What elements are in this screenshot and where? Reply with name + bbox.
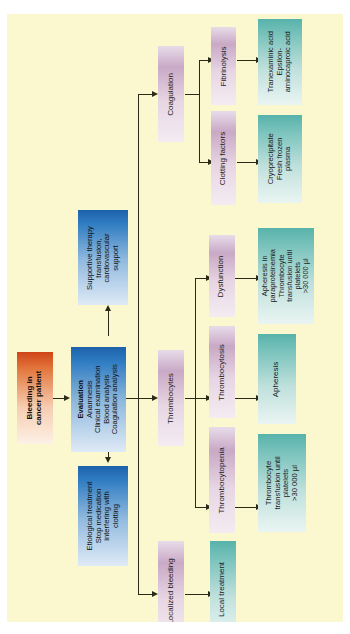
edge-thrombocytosis-tx (235, 398, 257, 399)
trunk-vertical (138, 94, 139, 594)
node-antifibrinolytic-agents[interactable]: Tranexaminic acidEpsilon-aminocaproic ac… (258, 19, 302, 105)
edge-fibrinolysis-antifibrinolytics (237, 60, 257, 61)
flowchart-canvas: Bleeding incancer patient EvaluationAnam… (7, 14, 343, 622)
node-fibrinolysis[interactable]: Fibrinolysis (211, 27, 236, 105)
node-supportive-therapy-label: Supportive therapytransfusion,cardiovasc… (86, 226, 120, 290)
node-localized-bleeding-label: Localized bleeding (167, 558, 176, 622)
node-fibrinolysis-label: Fibrinolysis (219, 46, 228, 86)
node-bleeding-in-cancer-patient-label: Bleeding incancer patient (26, 371, 44, 425)
node-thrombocytopenia[interactable]: Thrombocytopenia (209, 427, 235, 533)
node-coagulation[interactable]: Coagulation (158, 46, 184, 142)
node-thrombocytopenia-label: Thrombocytopenia (218, 447, 227, 513)
edge-thrombocytes-bus (185, 398, 195, 399)
node-clotting-factors-label: Clotting factors (219, 131, 228, 184)
node-etiological-treatment[interactable]: Etiological treatmentStop medicationinte… (78, 466, 128, 566)
node-dysfunction[interactable]: Dysfunction (209, 235, 235, 317)
node-dysfunction-label: Dysfunction (218, 255, 227, 297)
edge-evaluation-trunk (126, 398, 153, 399)
edge-trunk-coagulation (138, 94, 153, 95)
node-thrombocytosis-treatment-label: Apheresis (273, 361, 282, 397)
coagulation-bus (199, 60, 200, 162)
node-localized-bleeding[interactable]: Localized bleeding (158, 541, 184, 622)
edge-thrombocytopenia-tx (235, 507, 257, 508)
node-cryoprecipitate-ffp[interactable]: CryoprecipitateFresh frozenplasma (258, 115, 302, 203)
node-thrombocytosis-label: Thrombocytosis (218, 344, 227, 400)
node-thrombocytes-label: Thrombocytes (167, 373, 176, 424)
node-dysfunction-treatment-label: Apheresis inparaproteinemiaThrombocytetr… (261, 249, 311, 302)
node-evaluation-lines: AnamnesisClinical examinationBlood analy… (85, 364, 120, 434)
node-etiological-treatment-label: Etiological treatmentStop medicationinte… (86, 482, 120, 551)
edge-clotting-factors-cryo (237, 162, 257, 163)
node-thrombocytopenia-treatment[interactable]: Thrombocytetransfusion untilplatelets>30… (258, 434, 306, 532)
node-local-treatment[interactable]: Local treatment (210, 541, 236, 622)
edge-trunk-localized (138, 594, 153, 595)
figure-page: Bleeding incancer patient EvaluationAnam… (0, 0, 350, 634)
node-clotting-factors[interactable]: Clotting factors (211, 111, 236, 205)
node-antifibrinolytic-agents-label: Tranexaminic acidEpsilon-aminocaproic ac… (267, 31, 293, 92)
thrombocytes-bus (195, 278, 196, 507)
node-cryoprecipitate-ffp-label: CryoprecipitateFresh frozenplasma (267, 133, 293, 184)
edge-localized-local-treatment (185, 594, 209, 595)
node-evaluation[interactable]: EvaluationAnamnesisClinical examinationB… (71, 347, 126, 452)
node-thrombocytopenia-treatment-label: Thrombocytetransfusion untilplatelets>30… (265, 456, 299, 509)
edge-evaluation-supportive-arrow (105, 305, 111, 311)
node-evaluation-label: EvaluationAnamnesisClinical examinationB… (77, 364, 120, 434)
edge-evaluation-supportive (108, 310, 109, 336)
edge-dysfunction-tx (235, 278, 257, 279)
edge-evaluation-etiological-arrow (105, 457, 111, 463)
node-supportive-therapy[interactable]: Supportive therapytransfusion,cardiovasc… (78, 210, 128, 305)
node-bleeding-in-cancer-patient[interactable]: Bleeding incancer patient (17, 352, 53, 444)
node-dysfunction-treatment[interactable]: Apheresis inparaproteinemiaThrombocytetr… (258, 228, 314, 324)
node-thrombocytes[interactable]: Thrombocytes (158, 350, 184, 446)
edge-start-evaluation-arrow (64, 395, 70, 401)
edge-coagulation-bus (185, 94, 199, 95)
node-thrombocytosis-treatment[interactable]: Apheresis (258, 334, 296, 424)
node-coagulation-label: Coagulation (167, 73, 176, 116)
node-local-treatment-label: Local treatment (219, 561, 228, 616)
node-thrombocytosis[interactable]: Thrombocytosis (209, 326, 235, 418)
